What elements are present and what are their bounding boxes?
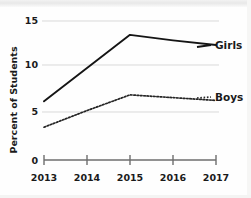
legend-swatch-boys	[197, 97, 211, 98]
y-tick-label-0: 0	[31, 155, 38, 166]
line-chart: 15 10 5 0 Percent of Students 2013 2014 …	[0, 0, 251, 198]
x-tick-label-2013: 2013	[31, 172, 57, 183]
x-axis	[44, 155, 216, 165]
x-tick-label-2017: 2017	[203, 172, 229, 183]
legend-swatch-girls	[197, 45, 211, 47]
y-axis-tick-labels: 15 10 5 0	[25, 15, 39, 166]
y-axis-title: Percent of Students	[8, 46, 19, 153]
x-tick-label-2014: 2014	[74, 172, 101, 183]
chart-container: 15 10 5 0 Percent of Students 2013 2014 …	[0, 0, 251, 198]
y-tick-label-10: 10	[25, 59, 39, 70]
series-line-boys	[44, 95, 216, 127]
y-tick-label-15: 15	[25, 15, 38, 26]
series-line-girls	[44, 35, 216, 101]
x-tick-label-2015: 2015	[117, 172, 143, 183]
legend-label-boys: Boys	[215, 91, 243, 103]
x-tick-label-2016: 2016	[160, 172, 187, 183]
x-axis-tick-labels: 2013 2014 2015 2016 2017	[31, 172, 229, 183]
legend-label-girls: Girls	[215, 39, 242, 51]
y-tick-label-5: 5	[31, 106, 38, 117]
legend: Girls Boys	[197, 39, 243, 103]
